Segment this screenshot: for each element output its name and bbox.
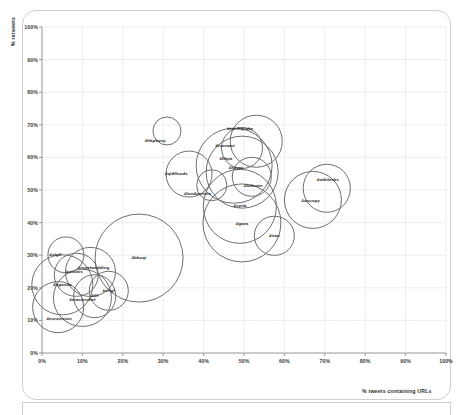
y-tick-label: 0% — [30, 350, 38, 356]
chart-screenshot: % retweets % tweets containing URLs 0%10… — [0, 0, 463, 415]
y-axis-label: % retweets — [10, 17, 16, 46]
y-tick-label: 70% — [27, 122, 38, 128]
y-tick-label: 30% — [27, 252, 38, 258]
x-axis-label: % tweets containing URLs — [362, 388, 432, 394]
x-tick-label: 80% — [360, 358, 371, 364]
x-tick-label: 0% — [38, 358, 46, 364]
bubble-label: #egypt — [229, 165, 243, 169]
x-tick-label: 70% — [319, 358, 330, 364]
x-tick-label: 60% — [279, 358, 290, 364]
y-tick-label: 50% — [27, 187, 38, 193]
x-tick-label: 30% — [158, 358, 169, 364]
bubble-label: #hkpkony — [145, 139, 166, 143]
x-tick-label: 50% — [239, 358, 250, 364]
bubble-label: #bahrain — [244, 184, 263, 188]
y-tick-label: 90% — [27, 57, 38, 63]
bubble-label: #libya — [220, 157, 233, 161]
bubble-label: #bbcqt — [132, 256, 147, 260]
bubble-label: #londonriots — [184, 192, 211, 196]
bubble-label: #qldfloods — [165, 171, 188, 175]
x-tick-label: 10% — [77, 358, 88, 364]
bubble-label: #wikileaks — [317, 178, 339, 182]
x-tick-label: 20% — [117, 358, 128, 364]
bubble-label: #tsunami — [215, 143, 235, 147]
bubble-label: #eurovision — [47, 317, 72, 321]
bubble-label: #syria — [233, 204, 246, 208]
x-tick-label: 90% — [400, 358, 411, 364]
bubble-label: #masterchef — [69, 297, 95, 301]
y-tick-label: 60% — [27, 154, 38, 160]
x-tick-label: 100% — [439, 358, 453, 364]
plot-area: 0%10%20%30%40%50%60%70%80%90%100%0%10%20… — [42, 27, 446, 353]
bubble-label: #gaza — [236, 221, 248, 225]
bubble-label: #oscars — [66, 270, 83, 274]
y-tick-label: 40% — [27, 220, 38, 226]
bubble-label: #uganda — [53, 282, 71, 286]
x-tick-label: 40% — [198, 358, 209, 364]
plot-wrapper: % retweets % tweets containing URLs 0%10… — [0, 0, 463, 415]
bubble-label: #occupy — [302, 199, 320, 203]
bubble-label: #sfgif — [49, 253, 61, 257]
bubble-label: #xrlgf — [103, 289, 115, 293]
bubble-label: #iran — [269, 233, 280, 237]
bubble-label: #earthquake — [227, 127, 253, 131]
y-tick-label: 80% — [27, 89, 38, 95]
y-tick-label: 100% — [24, 24, 38, 30]
